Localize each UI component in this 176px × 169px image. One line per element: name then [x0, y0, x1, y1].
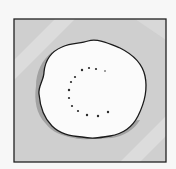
illustration	[0, 0, 176, 169]
dot	[107, 111, 109, 113]
dot	[71, 105, 73, 107]
dot	[68, 97, 70, 99]
dot	[68, 89, 70, 91]
dot	[97, 115, 99, 117]
dot	[104, 70, 106, 72]
dot	[88, 67, 90, 69]
dot	[74, 76, 76, 78]
white-blob	[39, 40, 146, 138]
dot	[77, 110, 79, 112]
dot	[86, 114, 88, 116]
dot	[81, 69, 83, 71]
dot	[95, 68, 97, 70]
dot	[70, 81, 72, 83]
